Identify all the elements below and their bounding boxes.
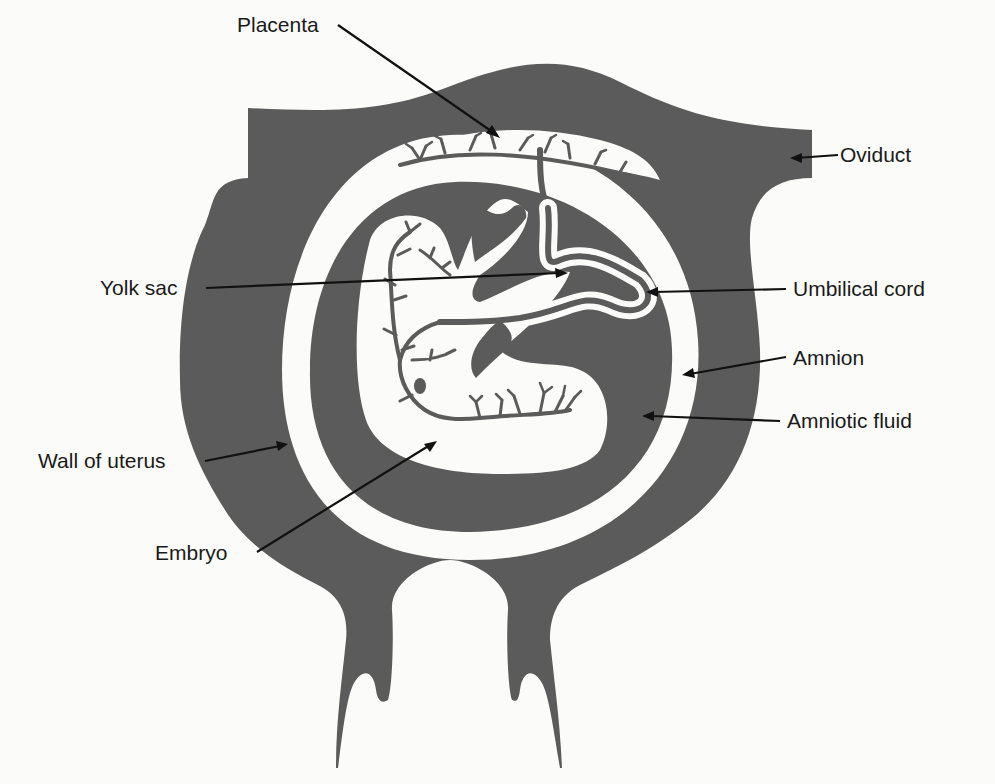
wall-of-uterus-label: Wall of uterus (38, 449, 166, 472)
oviduct-label: Oviduct (840, 143, 911, 166)
umbilical-cord-label: Umbilical cord (793, 277, 925, 300)
embryo-uterus-diagram: Placenta Oviduct Yolk sac Umbilical cord… (0, 0, 995, 784)
placenta-label: Placenta (237, 13, 319, 36)
yolk-sac-label: Yolk sac (100, 276, 177, 299)
embryo-label: Embryo (155, 541, 227, 564)
amniotic-fluid-label: Amniotic fluid (787, 409, 912, 432)
amnion-label: Amnion (793, 346, 864, 369)
